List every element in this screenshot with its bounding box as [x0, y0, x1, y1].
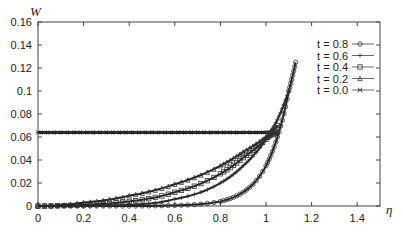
legend-label: t = 0.8 [317, 38, 348, 50]
y-tick-label: 0.06 [11, 131, 32, 143]
legend-label: t = 0.0 [317, 84, 348, 96]
x-tick-label: 1.4 [350, 212, 365, 224]
y-tick-label: 0.04 [11, 154, 32, 166]
y-tick-label: 0.08 [11, 108, 32, 120]
chart: 00.020.040.060.080.10.120.140.1600.20.40… [0, 0, 403, 242]
legend-label: t = 0.6 [317, 50, 348, 62]
y-tick-label: 0.14 [11, 39, 32, 51]
y-tick-label: 0.16 [11, 16, 32, 28]
x-tick-label: 1 [263, 212, 269, 224]
x-tick-label: 0.6 [167, 212, 182, 224]
x-tick-label: 0.4 [122, 212, 137, 224]
x-tick-label: 0 [35, 212, 41, 224]
y-tick-label: 0.02 [11, 177, 32, 189]
x-tick-label: 0.8 [213, 212, 228, 224]
y-tick-label: 0.1 [17, 85, 32, 97]
y-tick-label: 0.12 [11, 62, 32, 74]
x-tick-label: 0.2 [76, 212, 91, 224]
legend: t = 0.8t = 0.6t = 0.4t = 0.2t = 0.0 [317, 38, 374, 96]
y-axis-label: W [30, 4, 42, 19]
legend-label: t = 0.2 [317, 73, 348, 85]
legend-label: t = 0.4 [317, 61, 348, 73]
x-tick-label: 1.2 [304, 212, 319, 224]
y-tick-label: 0 [26, 200, 32, 212]
series-t-0-0 [36, 130, 280, 134]
x-axis-label: η [386, 202, 392, 217]
